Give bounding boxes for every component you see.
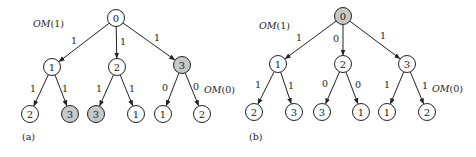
node-label: 3 — [67, 109, 73, 120]
diagram-canvas: 1111111000123233112OM(1)OM(0)(a)10111001… — [0, 0, 476, 157]
tree-node: 2 — [194, 106, 211, 123]
node-label: 0 — [113, 13, 119, 24]
tree-node: 3 — [399, 56, 416, 73]
node-label: 2 — [27, 109, 33, 120]
edge-weight-label: 1 — [288, 80, 294, 91]
node-label: 1 — [133, 109, 139, 120]
edge-weight-label: 1 — [129, 83, 135, 94]
tree-node: 3 — [174, 57, 191, 74]
node-label: 1 — [160, 109, 166, 120]
edge-r-n1 — [59, 23, 109, 61]
tree-node: 2 — [419, 104, 436, 121]
node-label: 3 — [291, 107, 297, 118]
panel-label: (a) — [22, 131, 35, 142]
edge-weight-label: 1 — [422, 80, 428, 91]
tree-node: 0 — [335, 8, 352, 25]
edge-weight-label: 1 — [62, 83, 68, 94]
node-label: 1 — [384, 107, 390, 118]
edge-weight-label: 0 — [333, 33, 339, 44]
edge-weight-label: 1 — [30, 83, 36, 94]
node-label: 2 — [340, 59, 346, 70]
om-level-label: OM(1) — [33, 18, 64, 29]
edge-n3-l5 — [166, 73, 179, 106]
om-level-label: OM(1) — [259, 20, 290, 31]
edge-weight-label: 1 — [154, 32, 160, 43]
tree-node: 3 — [88, 106, 105, 123]
tree-node: 1 — [155, 106, 172, 123]
node-label: 1 — [275, 59, 281, 70]
tree-node: 2 — [109, 59, 126, 76]
edge-r-n3 — [350, 21, 400, 59]
edge-weight-label: 1 — [384, 79, 390, 90]
node-label: 2 — [424, 107, 430, 118]
om-level-label: OM(0) — [204, 84, 235, 95]
edge-weight-label: 1 — [71, 35, 77, 46]
tree-node: 1 — [270, 56, 287, 73]
tree-node: 0 — [108, 10, 125, 27]
node-label: 2 — [199, 109, 205, 120]
tree-node: 1 — [353, 104, 370, 121]
tree-node: 2 — [22, 106, 39, 123]
node-label: 0 — [340, 11, 346, 22]
om-level-label: OM(0) — [432, 83, 463, 94]
node-label: 2 — [114, 62, 120, 73]
edge-weight-label: 1 — [96, 83, 102, 94]
node-label: 3 — [319, 107, 325, 118]
node-label: 1 — [49, 62, 55, 73]
edge-weight-label: 1 — [255, 79, 261, 90]
edge-weight-label: 1 — [380, 30, 386, 41]
tree-node: 3 — [314, 104, 331, 121]
node-label: 3 — [93, 109, 99, 120]
edge-weight-label: 0 — [322, 78, 328, 89]
tree-node: 1 — [379, 104, 396, 121]
edge-n3-l5 — [390, 72, 403, 104]
node-label: 1 — [358, 107, 364, 118]
node-label: 3 — [404, 59, 410, 70]
edge-r-n1 — [285, 21, 336, 59]
tree-node: 1 — [128, 106, 145, 123]
edge-weight-label: 0 — [193, 81, 199, 92]
node-label: 2 — [251, 107, 257, 118]
edge-weight-label: 1 — [296, 32, 302, 43]
tree-node: 2 — [246, 104, 263, 121]
edge-weight-label: 0 — [355, 79, 361, 90]
tree-node: 2 — [335, 56, 352, 73]
edge-weight-label: 0 — [162, 82, 168, 93]
node-label: 3 — [179, 60, 185, 71]
tree-panel-a: 1111111000123233112OM(1)OM(0)(a) — [22, 10, 235, 143]
tree-node: 3 — [286, 104, 303, 121]
tree-node: 3 — [62, 106, 79, 123]
panel-label: (b) — [249, 131, 263, 142]
tree-node: 1 — [44, 59, 61, 76]
edge-weight-label: 1 — [120, 36, 126, 47]
edge-r-n2 — [116, 26, 117, 58]
tree-panel-b: 1011100110123233112OM(1)OM(0)(b) — [246, 8, 463, 143]
edge-r-n3 — [123, 23, 175, 60]
